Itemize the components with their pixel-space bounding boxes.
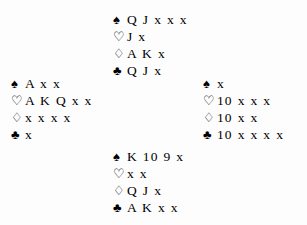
heart-icon: ♡	[113, 28, 127, 45]
suit-line-north-heart: ♡ J x	[113, 28, 188, 45]
suit-line-east-heart: ♡ 10 x x x	[203, 92, 284, 109]
suit-line-east-diamond: ♢ 10 x x	[203, 109, 284, 126]
club-icon: ♣	[113, 199, 127, 216]
cards-west-diamond: x x x x	[25, 109, 71, 126]
cards-south-heart: x x	[127, 165, 148, 182]
suit-line-west-spade: ♠ A x x	[11, 75, 92, 92]
spade-icon: ♠	[113, 11, 127, 28]
club-icon: ♣	[203, 126, 217, 143]
suit-line-north-club: ♣ Q J x	[113, 62, 188, 79]
cards-south-diamond: Q J x	[127, 182, 162, 199]
suit-line-south-club: ♣ A K x x	[113, 199, 184, 216]
diamond-icon: ♢	[11, 109, 25, 126]
bridge-deal-diagram: ♠ Q J x x x ♡ J x ♢ A K x ♣ Q J x ♠ A x …	[0, 0, 307, 225]
cards-east-heart: 10 x x x	[217, 92, 271, 109]
cards-west-heart: A K Q x x	[25, 92, 92, 109]
suit-line-south-heart: ♡ x x	[113, 165, 184, 182]
heart-icon: ♡	[203, 92, 217, 109]
suit-line-south-spade: ♠ K 10 9 x	[113, 148, 184, 165]
hand-west: ♠ A x x ♡ A K Q x x ♢ x x x x ♣ x	[11, 75, 92, 143]
heart-icon: ♡	[113, 165, 127, 182]
spade-icon: ♠	[11, 75, 25, 92]
suit-line-north-spade: ♠ Q J x x x	[113, 11, 188, 28]
hand-east: ♠ x ♡ 10 x x x ♢ 10 x x ♣ 10 x x x x	[203, 75, 284, 143]
cards-west-club: x	[25, 126, 33, 143]
cards-east-spade: x	[217, 75, 225, 92]
cards-north-club: Q J x	[127, 62, 162, 79]
cards-north-diamond: A K x	[127, 45, 166, 62]
suit-line-west-heart: ♡ A K Q x x	[11, 92, 92, 109]
suit-line-north-diamond: ♢ A K x	[113, 45, 188, 62]
cards-south-spade: K 10 9 x	[127, 148, 184, 165]
spade-icon: ♠	[113, 148, 127, 165]
diamond-icon: ♢	[203, 109, 217, 126]
spade-icon: ♠	[203, 75, 217, 92]
suit-line-south-diamond: ♢ Q J x	[113, 182, 184, 199]
cards-east-club: 10 x x x x	[217, 126, 284, 143]
cards-west-spade: A x x	[25, 75, 61, 92]
diamond-icon: ♢	[113, 45, 127, 62]
hand-south: ♠ K 10 9 x ♡ x x ♢ Q J x ♣ A K x x	[113, 148, 184, 216]
heart-icon: ♡	[11, 92, 25, 109]
club-icon: ♣	[11, 126, 25, 143]
suit-line-east-spade: ♠ x	[203, 75, 284, 92]
cards-east-diamond: 10 x x	[217, 109, 258, 126]
cards-north-heart: J x	[127, 28, 146, 45]
cards-north-spade: Q J x x x	[127, 11, 188, 28]
suit-line-east-club: ♣ 10 x x x x	[203, 126, 284, 143]
suit-line-west-diamond: ♢ x x x x	[11, 109, 92, 126]
hand-north: ♠ Q J x x x ♡ J x ♢ A K x ♣ Q J x	[113, 11, 188, 79]
club-icon: ♣	[113, 62, 127, 79]
diamond-icon: ♢	[113, 182, 127, 199]
suit-line-west-club: ♣ x	[11, 126, 92, 143]
cards-south-club: A K x x	[127, 199, 179, 216]
